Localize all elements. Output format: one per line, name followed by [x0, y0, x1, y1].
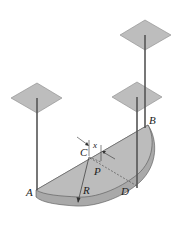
label-d: D — [120, 185, 129, 197]
label-b: B — [149, 114, 156, 126]
label-a: A — [25, 186, 33, 198]
diagram-canvas: A B C D P R x — [0, 0, 181, 230]
label-c: C — [80, 146, 88, 158]
label-r: R — [82, 184, 90, 196]
label-x: x — [92, 140, 97, 150]
label-p: P — [93, 165, 101, 177]
